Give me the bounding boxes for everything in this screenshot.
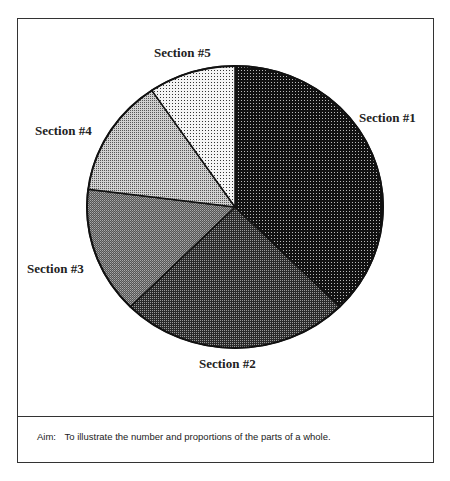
label-section-4: Section #4 (35, 124, 92, 137)
caption-prefix: Aim: (37, 431, 56, 442)
caption-text: To illustrate the number and proportions… (64, 431, 330, 442)
label-section-5: Section #5 (154, 46, 211, 59)
label-section-2: Section #2 (199, 357, 256, 370)
pie-chart (0, 0, 450, 481)
caption: Aim: To illustrate the number and propor… (37, 431, 331, 442)
label-section-1: Section #1 (359, 111, 416, 124)
pie-slices (87, 66, 383, 348)
label-section-3: Section #3 (27, 262, 84, 275)
